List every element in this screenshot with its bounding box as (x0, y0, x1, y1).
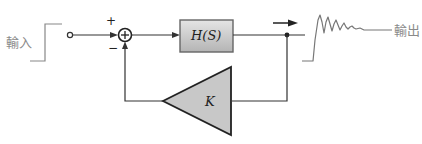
block-diagram-canvas (0, 0, 422, 144)
feedback-block-label: K (205, 95, 215, 108)
feedback-gain-block-k (163, 67, 231, 135)
input-line (73, 32, 118, 38)
output-direction-arrow (273, 20, 298, 27)
plus-sign: + (106, 15, 116, 27)
summing-junction (119, 29, 132, 42)
output-label: 輸出 (394, 24, 420, 37)
input-terminal (67, 32, 72, 37)
forward-block-label: H(S) (191, 29, 221, 42)
input-label: 輸入 (6, 36, 32, 49)
output-response-signal (302, 15, 392, 61)
minus-sign: − (108, 42, 118, 54)
input-step-signal (30, 24, 62, 61)
forward-line (132, 32, 181, 38)
